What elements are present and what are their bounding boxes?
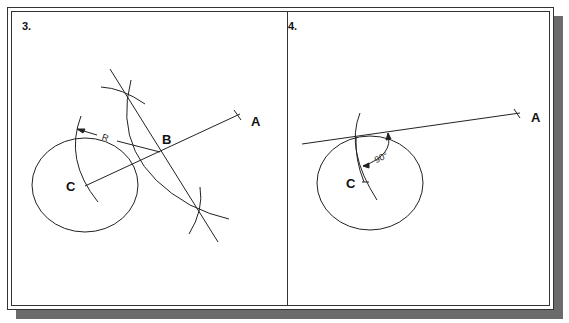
panel-4-tangent-line — [302, 113, 520, 144]
panel-4-circle — [317, 136, 423, 230]
arrowhead-icon — [386, 133, 391, 140]
panel-3-line-c-to-a — [85, 114, 240, 186]
panel-3-label-a: A — [251, 114, 261, 129]
panel-3-dimension-line-right — [117, 141, 160, 152]
panel-4-label-a: A — [531, 110, 541, 125]
panel-3-arc-bottom — [189, 187, 201, 234]
panel-4-angle-label: 90° — [373, 150, 390, 165]
construction-drawing: 3. C A B R 4. C A 90° — [0, 0, 569, 323]
panel-3-label-c: C — [66, 179, 76, 194]
panel-3-step-label: 3. — [22, 20, 31, 32]
panel-4-label-c: C — [346, 176, 356, 191]
panel-4 — [302, 109, 520, 230]
panel-3-label-b: B — [162, 132, 171, 147]
panel-4-step-label: 4. — [288, 20, 297, 32]
arrowhead-icon — [77, 129, 85, 133]
panel-4-radius-line — [356, 137, 364, 182]
panel-3-dimension-label: R — [101, 132, 111, 144]
arrowhead-icon — [363, 163, 369, 168]
panel-3-arc-large — [127, 80, 229, 219]
panel-3 — [32, 69, 241, 242]
panel-3-circle — [32, 138, 138, 232]
panel-3-tick-a — [234, 110, 241, 120]
